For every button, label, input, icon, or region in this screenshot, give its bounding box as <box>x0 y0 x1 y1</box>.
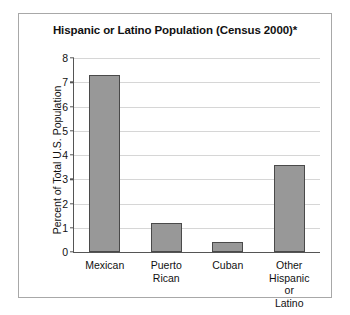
x-tick-label: Mexican <box>85 259 124 272</box>
y-tick-label: 3 <box>62 173 68 185</box>
plot-area: 012345678 MexicanPuerto RicanCubanOther … <box>73 58 320 253</box>
y-tick-label: 6 <box>62 101 68 113</box>
bar <box>274 165 305 252</box>
bar-series <box>74 58 320 252</box>
bar <box>89 75 120 252</box>
bar <box>151 223 182 252</box>
chart-title: Hispanic or Latino Population (Census 20… <box>19 24 331 36</box>
y-tick-label: 2 <box>62 198 68 210</box>
x-tick-label: Other Hispanic or Latino <box>269 259 309 309</box>
x-tick-label: Puerto Rican <box>151 259 182 284</box>
chart-figure: Hispanic or Latino Population (Census 20… <box>18 13 332 298</box>
y-tick-label: 5 <box>62 125 68 137</box>
y-tick-label: 8 <box>62 52 68 64</box>
y-tick-label: 1 <box>62 222 68 234</box>
y-tick-label: 4 <box>62 149 68 161</box>
y-tick-label: 0 <box>62 246 68 258</box>
x-tick-label: Cuban <box>212 259 243 272</box>
y-tick-label: 7 <box>62 76 68 88</box>
bar <box>212 242 243 252</box>
